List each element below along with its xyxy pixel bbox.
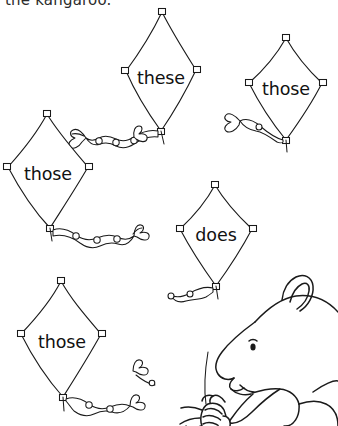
kite-word-those-top-right: those — [262, 79, 310, 99]
kite-corner-tab — [194, 67, 201, 73]
kite-those-top-right: those — [225, 35, 327, 153]
kite-word-those-bottom-left: those — [38, 332, 86, 352]
kite-tail — [69, 126, 158, 148]
kite-corner-tab — [250, 226, 257, 232]
worksheet-artwork: these those — [0, 0, 338, 426]
worksheet-page: the kangaroo. these — [0, 0, 338, 426]
kite-tail — [168, 287, 213, 301]
kite-does: does — [168, 182, 257, 302]
kite-corner-tab — [99, 331, 106, 337]
kite-corner-tab — [4, 164, 11, 170]
kite-corner-tab — [44, 111, 51, 117]
kite-corner-tab — [122, 68, 129, 74]
kite-corner-tab — [159, 9, 166, 15]
kite-corner-tab — [283, 35, 290, 41]
kite-corner-tab — [18, 331, 25, 337]
kite-these: these — [69, 9, 201, 149]
kite-tail — [53, 225, 149, 248]
kite-corner-tab — [212, 182, 219, 188]
kite-corner-tab — [177, 226, 184, 232]
kite-word-these: these — [137, 68, 185, 88]
kite-corner-tab — [86, 164, 93, 170]
kite-word-those-left: those — [24, 164, 72, 184]
kite-corner-tab — [320, 80, 327, 86]
kite-corner-tab — [58, 278, 65, 284]
kangaroo-eye — [250, 343, 255, 350]
kite-corner-tab — [246, 80, 253, 86]
kite-word-does: does — [195, 225, 236, 245]
kite-those-bottom-left: those — [18, 278, 156, 416]
